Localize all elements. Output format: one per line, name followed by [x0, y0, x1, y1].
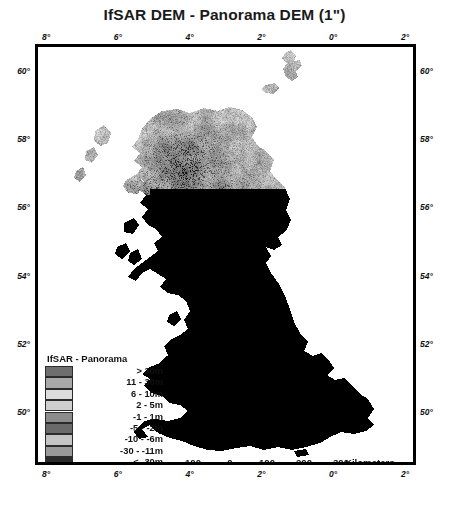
tick-top-1 — [118, 44, 119, 47]
tick-top-0 — [46, 44, 47, 47]
legend-row: 11 - 30m — [45, 377, 165, 388]
map-frame: N IfSAR - Panorama > 30m11 - 30m6 - 10m2… — [35, 44, 416, 465]
tick-left-4 — [35, 344, 38, 345]
map-figure: IfSAR DEM - Panorama DEM (1") 8°6°4°2°0°… — [0, 0, 449, 510]
legend-label: -30 - -11m — [73, 446, 165, 457]
legend-label: -10 - -6m — [73, 434, 165, 445]
axis-label-top-1: 6° — [114, 32, 122, 42]
tick-left-0 — [35, 71, 38, 72]
legend-title: IfSAR - Panorama — [47, 353, 165, 364]
tick-left-5 — [35, 412, 38, 413]
legend-row: -5 - -2m — [45, 423, 165, 434]
scale-bar: 1000100200300Kilometers — [193, 457, 408, 465]
legend-swatch — [45, 412, 73, 423]
tick-left-2 — [35, 207, 38, 208]
axis-label-top-4: 0° — [329, 32, 337, 42]
legend: IfSAR - Panorama > 30m11 - 30m6 - 10m2 -… — [45, 353, 165, 465]
legend-swatch — [45, 423, 73, 434]
legend-label: -5 - -2m — [73, 423, 165, 434]
axis-label-right-0: 60° — [420, 66, 433, 76]
legend-swatch — [45, 446, 73, 457]
tick-left-1 — [35, 139, 38, 140]
axis-label-right-2: 56° — [420, 202, 433, 212]
legend-row: 6 - 10m — [45, 389, 165, 400]
tick-right-3 — [413, 276, 416, 277]
tick-right-0 — [413, 71, 416, 72]
axis-label-top-2: 4° — [186, 32, 194, 42]
legend-swatch — [45, 366, 73, 377]
tick-top-3 — [261, 44, 262, 47]
legend-label: 2 - 5m — [73, 400, 165, 411]
legend-label: -1 - 1m — [73, 412, 165, 423]
tick-top-4 — [333, 44, 334, 47]
legend-row: < -30m — [45, 457, 165, 465]
legend-row: -30 - -11m — [45, 446, 165, 457]
tick-top-5 — [405, 44, 406, 47]
tick-right-1 — [413, 139, 416, 140]
legend-entries: > 30m11 - 30m6 - 10m2 - 5m-1 - 1m-5 - -2… — [45, 366, 165, 465]
legend-label: < -30m — [73, 457, 165, 465]
tick-left-3 — [35, 276, 38, 277]
legend-row: > 30m — [45, 366, 165, 377]
tick-right-5 — [413, 412, 416, 413]
axis-label-right-4: 52° — [420, 339, 433, 349]
axis-label-bottom-4: 0° — [329, 469, 337, 479]
axis-label-left-3: 54° — [2, 271, 30, 281]
legend-row: 2 - 5m — [45, 400, 165, 411]
page-title: IfSAR DEM - Panorama DEM (1") — [0, 6, 449, 24]
scale-bar-number: 100 — [185, 457, 201, 465]
scale-bar-number: 0 — [227, 457, 232, 465]
axis-label-left-1: 58° — [2, 134, 30, 144]
legend-swatch — [45, 434, 73, 445]
axis-label-left-5: 50° — [2, 407, 30, 417]
tick-right-2 — [413, 207, 416, 208]
legend-swatch — [45, 457, 73, 465]
axis-label-right-5: 50° — [420, 407, 433, 417]
axis-label-bottom-2: 4° — [186, 469, 194, 479]
legend-label: 11 - 30m — [73, 377, 165, 388]
scale-bar-unit: Kilometers — [345, 457, 395, 465]
axis-label-top-0: 8° — [42, 32, 50, 42]
scale-bar-number: 200 — [296, 457, 312, 465]
axis-label-left-0: 60° — [2, 66, 30, 76]
axis-label-top-3: 2° — [257, 32, 265, 42]
legend-swatch — [45, 389, 73, 400]
legend-row: -1 - 1m — [45, 412, 165, 423]
axis-label-bottom-5: 2° — [401, 469, 409, 479]
axis-label-top-5: 2° — [401, 32, 409, 42]
legend-label: > 30m — [73, 366, 165, 377]
scale-bar-number: 100 — [259, 457, 275, 465]
scale-bar-numbers: 1000100200300Kilometers — [193, 457, 408, 465]
axis-label-left-4: 52° — [2, 339, 30, 349]
axis-label-right-1: 58° — [420, 134, 433, 144]
legend-label: 6 - 10m — [73, 389, 165, 400]
axis-label-bottom-0: 8° — [42, 469, 50, 479]
legend-swatch — [45, 377, 73, 388]
legend-row: -10 - -6m — [45, 434, 165, 445]
axis-label-right-3: 54° — [420, 271, 433, 281]
tick-top-2 — [190, 44, 191, 47]
axis-label-bottom-1: 6° — [114, 469, 122, 479]
axis-label-left-2: 56° — [2, 202, 30, 212]
legend-swatch — [45, 400, 73, 411]
axis-label-bottom-3: 2° — [257, 469, 265, 479]
tick-right-4 — [413, 344, 416, 345]
